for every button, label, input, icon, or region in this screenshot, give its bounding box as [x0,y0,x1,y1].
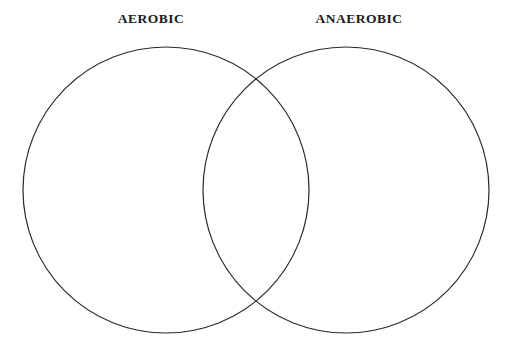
venn-label-aerobic: AEROBIC [118,12,185,26]
venn-diagram-canvas: AEROBIC ANAEROBIC [0,0,509,352]
venn-label-anaerobic: ANAEROBIC [315,12,402,26]
venn-circles-group [0,0,509,352]
